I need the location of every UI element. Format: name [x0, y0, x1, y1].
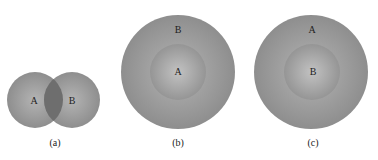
label-b: B [69, 95, 76, 106]
inner-label: B [310, 66, 317, 77]
panel-a: A B (a) [7, 72, 100, 149]
outer-label: B [175, 24, 182, 35]
caption-c: (c) [307, 137, 318, 149]
inner-label: A [174, 66, 182, 77]
caption-a: (a) [49, 137, 60, 149]
set-diagrams: A B (a) B A (b) A B (c) [0, 0, 378, 160]
panel-c: A B (c) [254, 15, 368, 149]
outer-label: A [308, 24, 316, 35]
panel-b: B A (b) [121, 15, 235, 149]
caption-b: (b) [172, 137, 184, 149]
label-a: A [30, 95, 38, 106]
